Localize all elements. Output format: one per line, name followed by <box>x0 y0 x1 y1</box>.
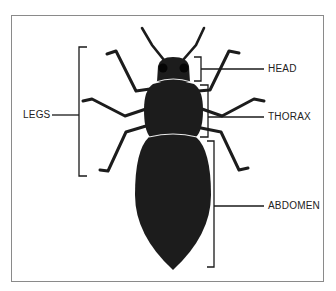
label-thorax: THORAX <box>268 112 311 122</box>
abdomen <box>135 134 211 270</box>
label-head: HEAD <box>268 64 297 74</box>
insect-diagram <box>0 0 336 291</box>
eye-left <box>159 64 168 73</box>
label-legs: LEGS <box>23 110 50 120</box>
eye-right <box>180 64 189 73</box>
antennae <box>142 28 204 60</box>
legs-bracket <box>79 47 87 176</box>
label-abdomen: ABDOMEN <box>268 201 320 211</box>
leg-mid-left <box>83 99 146 116</box>
thorax <box>144 81 203 138</box>
leg-front-left <box>107 51 150 91</box>
leg-mid-right <box>202 99 264 116</box>
head-bracket <box>194 57 201 81</box>
